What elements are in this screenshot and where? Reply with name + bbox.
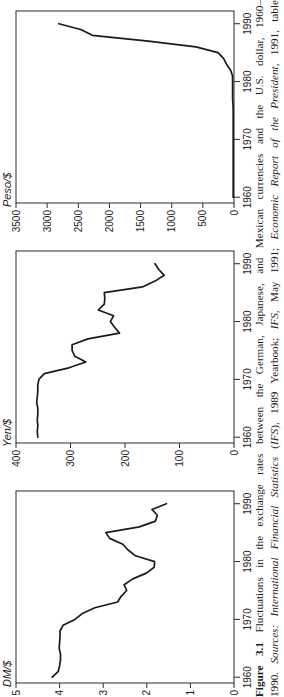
- caption-segment: (: [268, 445, 280, 457]
- y-tick-label: 2500: [73, 210, 84, 233]
- caption-segment: Figure 3.1: [253, 642, 265, 697]
- y-tick-label: 3000: [42, 210, 53, 233]
- peso-axis-title: Peso/$: [1, 172, 13, 207]
- y-tick-label: 400: [11, 450, 22, 467]
- y-tick-label: 300: [65, 450, 76, 467]
- peso-usd-chart: Peso/$0500100015002000250030003500196019…: [0, 0, 260, 217]
- caption-line-1: Figure 3.1 Fluctuations in the exchange …: [252, 0, 267, 697]
- y-tick-label: 3: [98, 690, 109, 696]
- y-tick-label: 5: [11, 690, 22, 696]
- y-tick-label: 500: [197, 210, 208, 227]
- charts-row: DM/$0123451960197019801990 Yen/$01002003…: [0, 0, 252, 697]
- y-tick-label: 4: [54, 690, 65, 696]
- yen-axis-title: Yen/$: [1, 418, 13, 447]
- y-tick-label: 2000: [104, 210, 115, 233]
- caption-line-3: B-108.: [282, 0, 284, 697]
- caption-segment: IFS: [268, 313, 280, 329]
- caption-segment: , 1991, table: [268, 0, 280, 66]
- dm-chart-svg: DM/$0123451960197019801990: [0, 457, 260, 697]
- caption-segment: Economic Report of the President: [268, 66, 280, 239]
- figure-caption: Figure 3.1 Fluctuations in the exchange …: [252, 0, 284, 697]
- caption-segment: IFS: [268, 429, 280, 445]
- caption-segment: Sources: International Financial Statist…: [268, 457, 280, 664]
- caption-segment: B-108.: [283, 666, 284, 697]
- caption-segment: 1990.: [268, 664, 280, 697]
- plot-box: [16, 11, 234, 203]
- caption-segment: , May 1991;: [268, 239, 280, 313]
- peso-exchange-rate-line: [59, 24, 233, 198]
- y-tick-label: 2: [141, 690, 152, 696]
- scanned-figure-page: DM/$0123451960197019801990 Yen/$01002003…: [0, 0, 284, 697]
- yen-usd-chart: Yen/$01002003004001960197019801990: [0, 217, 260, 457]
- y-tick-label: 0: [229, 210, 240, 216]
- caption-line-2: 1990. Sources: International Financial S…: [267, 0, 282, 697]
- y-tick-label: 100: [174, 450, 185, 467]
- rotated-figure-content: DM/$0123451960197019801990 Yen/$01002003…: [0, 0, 284, 697]
- y-tick-label: 0: [229, 450, 240, 456]
- y-tick-label: 200: [120, 450, 131, 467]
- plot-box: [16, 251, 234, 443]
- y-tick-label: 1000: [166, 210, 177, 233]
- y-tick-label: 1500: [135, 210, 146, 233]
- y-tick-label: 1: [185, 690, 196, 696]
- yen-chart-svg: Yen/$01002003004001960197019801990: [0, 217, 260, 457]
- dm-usd-chart: DM/$0123451960197019801990: [0, 457, 260, 697]
- dm-axis-title: DM/$: [1, 660, 13, 687]
- y-tick-label: 3500: [11, 210, 22, 233]
- peso-chart-svg: Peso/$0500100015002000250030003500196019…: [0, 0, 260, 217]
- y-tick-label: 0: [229, 690, 240, 696]
- dm-exchange-rate-line: [52, 504, 166, 678]
- caption-segment: Fluctuations in the exchange rates betwe…: [253, 0, 265, 642]
- yen-exchange-rate-line: [37, 264, 165, 438]
- caption-segment: ), 1989 Yearbook;: [268, 329, 280, 428]
